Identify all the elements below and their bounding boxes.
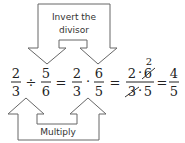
fraction-3-denominator: 3 bbox=[73, 84, 81, 99]
fraction-5-denominator-b: 5 bbox=[144, 84, 152, 99]
divide-sign: ÷ bbox=[26, 75, 37, 90]
fraction-4-numerator: 6 bbox=[95, 66, 103, 81]
fraction-2-numerator: 5 bbox=[42, 66, 50, 81]
multiply-dot: · bbox=[86, 74, 90, 89]
equation: 2 3 ÷ 5 6 = 2 3 · 6 5 = 2 2 · 6 3 · 5 = … bbox=[11, 56, 179, 99]
fraction-3-numerator: 2 bbox=[73, 66, 81, 81]
fraction-2-denominator: 6 bbox=[42, 84, 50, 99]
equals-sign-3: = bbox=[157, 75, 168, 90]
fraction-5-denominator-dot: · bbox=[138, 83, 142, 98]
fraction-6-denominator: 5 bbox=[170, 84, 178, 99]
multiply-label: Multiply bbox=[40, 127, 76, 137]
fraction-1-denominator: 3 bbox=[12, 84, 20, 99]
fraction-5-numerator-a: 2 bbox=[128, 66, 136, 81]
fraction-5-numerator-dot: · bbox=[138, 65, 142, 80]
invert-label-line2: divisor bbox=[59, 25, 89, 35]
invert-label-line1: Invert the bbox=[52, 12, 97, 22]
division-of-fractions-diagram: Invert the divisor 2 3 ÷ 5 6 = 2 3 · 6 5… bbox=[0, 0, 185, 143]
equals-sign-1: = bbox=[56, 75, 67, 90]
fraction-1-numerator: 2 bbox=[12, 66, 20, 81]
equals-sign-2: = bbox=[110, 75, 121, 90]
fraction-6-numerator: 4 bbox=[170, 66, 178, 81]
fraction-4-denominator: 5 bbox=[95, 84, 103, 99]
